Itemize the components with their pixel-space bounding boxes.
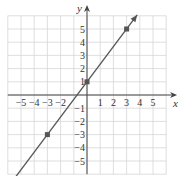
coordinate-graph: xy−5−4−3−21234554321−1−2−3−4−5	[0, 0, 187, 176]
data-point	[124, 27, 129, 32]
x-tick-label: 3	[124, 97, 129, 108]
plot-area: xy−5−4−3−21234554321−1−2−3−4−5	[0, 0, 187, 176]
x-tick-label: 5	[151, 97, 156, 108]
y-tick-label: 2	[80, 63, 85, 74]
data-point	[85, 79, 90, 84]
y-tick-label: −5	[74, 156, 85, 167]
y-tick-label: 4	[80, 37, 85, 48]
x-tick-label: 1	[98, 97, 103, 108]
y-tick-label: −4	[74, 142, 85, 153]
y-axis-label: y	[76, 2, 82, 14]
y-tick-label: −1	[74, 103, 85, 114]
data-point	[45, 132, 50, 137]
x-tick-label: −2	[55, 97, 66, 108]
y-tick-label: 3	[80, 50, 85, 61]
x-tick-label: −4	[29, 97, 40, 108]
x-tick-label: −3	[42, 97, 53, 108]
y-tick-label: 5	[80, 24, 85, 35]
y-tick-label: −3	[74, 129, 85, 140]
x-axis-label: x	[172, 97, 178, 109]
x-tick-label: 4	[137, 97, 142, 108]
x-tick-label: −5	[16, 97, 27, 108]
x-tick-label: 2	[111, 97, 116, 108]
y-tick-label: −2	[74, 116, 85, 127]
